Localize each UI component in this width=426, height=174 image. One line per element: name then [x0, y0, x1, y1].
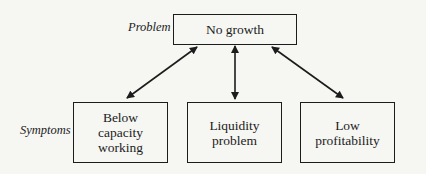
symptom-box-text: Liquidity problem [209, 118, 259, 148]
symptom-box-below-capacity-working: Below capacity working [73, 102, 168, 163]
diagram-canvas: Problem No growth Symptoms Below capacit… [0, 0, 426, 174]
symptoms-row-label: Symptoms [20, 123, 71, 137]
problem-box-text: No growth [206, 22, 264, 37]
problem-box-no-growth: No growth [173, 14, 297, 45]
symptom-line: Liquidity [209, 118, 259, 133]
double-arrow-left [127, 47, 197, 98]
symptom-box-text: Below capacity working [98, 110, 143, 155]
symptom-box-low-profitability: Low profitability [300, 102, 395, 163]
symptom-line: Below [98, 110, 143, 125]
double-arrow-right [272, 47, 343, 98]
problem-row-label: Problem [128, 20, 171, 34]
symptom-line: Low [315, 118, 380, 133]
symptom-line: problem [209, 133, 259, 148]
symptom-box-liquidity-problem: Liquidity problem [187, 102, 282, 163]
symptom-line: working [98, 140, 143, 155]
symptom-line: profitability [315, 133, 380, 148]
symptom-line: capacity [98, 125, 143, 140]
symptom-box-text: Low profitability [315, 118, 380, 148]
